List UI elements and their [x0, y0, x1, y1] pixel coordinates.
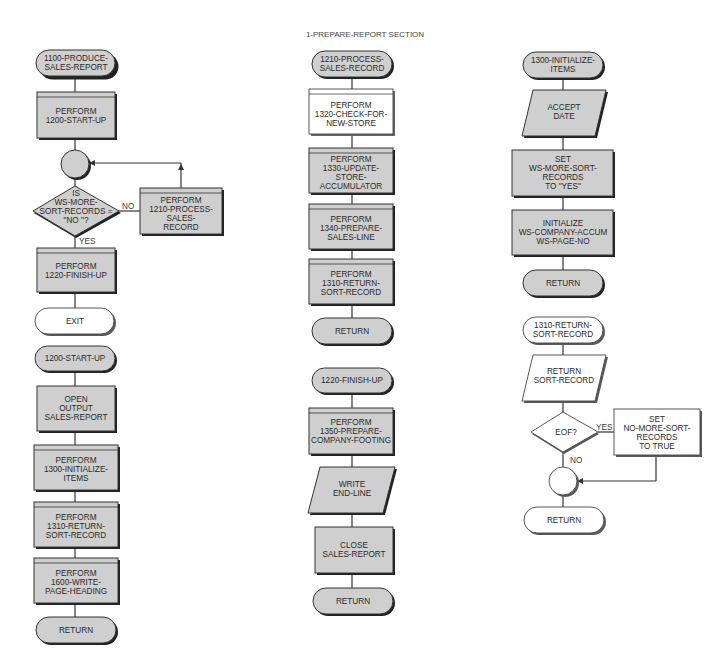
terminal-return[interactable]: RETURN — [312, 318, 394, 346]
process-set-ws-more-sort-records[interactable]: SET WS-MORE-SORT- RECORDS TO "YES" — [512, 150, 615, 198]
terminal-1220-finish-up[interactable]: 1220-FINISH-UP — [312, 368, 394, 395]
perform-1210-process-sales-record[interactable]: PERFORM 1210-PROCESS- SALES- RECORD — [140, 188, 224, 236]
svg-text:PERFORM: PERFORM — [331, 101, 372, 110]
terminal-return[interactable]: RETURN — [313, 588, 395, 616]
svg-text:SET: SET — [649, 415, 665, 424]
flow-1310-return-sort-record: 1310-RETURN- SORT-RECORD RETURN SORT-REC… — [522, 317, 702, 535]
label-yes: YES — [596, 423, 613, 432]
svg-text:RETURN: RETURN — [547, 367, 581, 376]
svg-text:1220-FINISH-UP: 1220-FINISH-UP — [45, 271, 107, 280]
svg-text:RETURN: RETURN — [547, 516, 581, 525]
perform-1300-initialize-items[interactable]: PERFORM 1300-INITIALIZE- ITEMS — [34, 445, 120, 492]
process-open-output-sales-report[interactable]: OPEN OUTPUT SALES-REPORT — [37, 386, 117, 433]
perform-1310-return-sort-record[interactable]: PERFORM 1310-RETURN- SORT-RECORD — [34, 502, 120, 549]
decision-ws-more-sort-records[interactable]: IS WS-MORE- SORT-RECORDS = "NO "? — [33, 186, 121, 238]
svg-text:1310-RETURN-: 1310-RETURN- — [534, 321, 592, 330]
label-no: NO — [570, 456, 582, 465]
svg-text:RECORDS: RECORDS — [543, 173, 584, 182]
perform-1220-finish-up[interactable]: PERFORM 1220-FINISH-UP — [37, 248, 117, 294]
svg-text:NEW-STORE: NEW-STORE — [326, 119, 376, 128]
svg-text:SORT-RECORDS =: SORT-RECORDS = — [40, 207, 113, 216]
svg-text:COMPANY-FOOTING: COMPANY-FOOTING — [311, 436, 391, 445]
terminal-return[interactable]: RETURN — [36, 617, 118, 645]
svg-text:WS-MORE-SORT-: WS-MORE-SORT- — [529, 164, 597, 173]
terminal-1100-produce-sales-report[interactable]: 1100-PRODUCE- SALES-REPORT — [36, 50, 119, 80]
process-initialize-ws-company-accum[interactable]: INITIALIZE WS-COMPANY-ACCUM WS-PAGE-NO — [512, 210, 615, 257]
terminal-1310-return-sort-record[interactable]: 1310-RETURN- SORT-RECORD — [523, 317, 605, 345]
terminal-1200-start-up[interactable]: 1200-START-UP — [35, 346, 117, 373]
svg-text:SALES-REPORT: SALES-REPORT — [322, 550, 385, 559]
terminal-1300-initialize-items[interactable]: 1300-INITIALIZE- ITEMS — [523, 52, 605, 80]
perform-1320-check-for-new-store[interactable]: PERFORM 1320-CHECK-FOR- NEW-STORE — [309, 89, 395, 136]
svg-text:EXIT: EXIT — [66, 317, 84, 326]
svg-text:EOF?: EOF? — [555, 428, 577, 437]
perform-1330-update-store-accumulator[interactable]: PERFORM 1330-UPDATE- STORE- ACCUMULATOR — [309, 148, 395, 195]
svg-text:1220-FINISH-UP: 1220-FINISH-UP — [321, 376, 383, 385]
svg-text:CLOSE: CLOSE — [340, 541, 368, 550]
arrowhead-icon — [178, 164, 184, 170]
svg-text:1310-RETURN-: 1310-RETURN- — [322, 279, 380, 288]
connector-circle — [549, 467, 579, 497]
svg-text:1300-INITIALIZE-: 1300-INITIALIZE- — [531, 56, 595, 65]
perform-1310-return-sort-record[interactable]: PERFORM 1310-RETURN- SORT-RECORD — [309, 259, 395, 306]
svg-text:1340-PREPARE-: 1340-PREPARE- — [320, 224, 382, 233]
svg-text:1200-START-UP: 1200-START-UP — [45, 354, 106, 363]
svg-text:TO TRUE: TO TRUE — [639, 442, 675, 451]
flow-1220-finish-up: 1220-FINISH-UP PERFORM 1350-PREPARE- COM… — [308, 368, 397, 616]
svg-text:PERFORM: PERFORM — [56, 262, 97, 271]
svg-text:PERFORM: PERFORM — [161, 196, 202, 205]
svg-text:SALES-LINE: SALES-LINE — [327, 233, 375, 242]
svg-text:NO-MORE-SORT-: NO-MORE-SORT- — [623, 424, 690, 433]
svg-text:OPEN: OPEN — [64, 395, 87, 404]
svg-text:SORT-RECORD: SORT-RECORD — [321, 288, 381, 297]
perform-1200-start-up[interactable]: PERFORM 1200-START-UP — [37, 92, 117, 140]
svg-text:SORT-RECORD: SORT-RECORD — [534, 376, 594, 385]
io-accept-date[interactable]: ACCEPT DATE — [522, 90, 608, 138]
svg-text:STORE-: STORE- — [336, 173, 367, 182]
svg-text:ACCUMULATOR: ACCUMULATOR — [320, 182, 383, 191]
svg-text:1210-PROCESS-: 1210-PROCESS- — [320, 55, 384, 64]
terminal-return[interactable]: RETURN — [523, 270, 605, 298]
flow-1300-initialize-items: 1300-INITIALIZE- ITEMS ACCEPT DATE SET W… — [512, 52, 615, 298]
svg-text:INITIALIZE: INITIALIZE — [543, 219, 584, 228]
svg-text:WRITE: WRITE — [339, 480, 366, 489]
process-set-no-more-sort-records[interactable]: SET NO-MORE-SORT- RECORDS TO TRUE — [614, 409, 702, 457]
connector-circle — [61, 150, 91, 180]
label-no: NO — [122, 202, 134, 211]
svg-text:PERFORM: PERFORM — [56, 107, 97, 116]
svg-text:SALES-RECORD: SALES-RECORD — [320, 64, 385, 73]
svg-text:TO "YES": TO "YES" — [545, 182, 581, 191]
svg-text:1330-UPDATE-: 1330-UPDATE- — [323, 164, 380, 173]
section-title: 1-PREPARE-REPORT SECTION — [306, 30, 424, 39]
svg-text:WS-PAGE-NO: WS-PAGE-NO — [536, 237, 589, 246]
label-yes: YES — [79, 237, 96, 246]
svg-text:OUTPUT: OUTPUT — [59, 404, 93, 413]
svg-text:RETURN: RETURN — [546, 279, 580, 288]
svg-text:WS-MORE-: WS-MORE- — [54, 198, 97, 207]
svg-text:ITEMS: ITEMS — [550, 65, 576, 74]
svg-text:WS-COMPANY-ACCUM: WS-COMPANY-ACCUM — [519, 228, 608, 237]
svg-text:DATE: DATE — [553, 112, 575, 121]
svg-text:RETURN: RETURN — [59, 626, 93, 635]
svg-text:PERFORM: PERFORM — [331, 418, 372, 427]
terminal-exit[interactable]: EXIT — [35, 308, 116, 336]
io-return-sort-record[interactable]: RETURN SORT-RECORD — [522, 355, 608, 403]
svg-text:1200-START-UP: 1200-START-UP — [46, 116, 107, 125]
process-close-sales-report[interactable]: CLOSE SALES-REPORT — [315, 527, 395, 575]
io-write-end-line[interactable]: WRITE END-LINE — [308, 467, 397, 515]
svg-text:PAGE-HEADING: PAGE-HEADING — [45, 587, 107, 596]
perform-1600-write-page-heading[interactable]: PERFORM 1600-WRITE- PAGE-HEADING — [34, 558, 120, 605]
perform-1340-prepare-sales-line[interactable]: PERFORM 1340-PREPARE- SALES-LINE — [309, 204, 395, 251]
svg-text:1350-PREPARE-: 1350-PREPARE- — [320, 427, 382, 436]
svg-text:1320-CHECK-FOR-: 1320-CHECK-FOR- — [315, 110, 388, 119]
terminal-return[interactable]: RETURN — [524, 507, 606, 535]
svg-text:1310-RETURN-: 1310-RETURN- — [47, 522, 105, 531]
perform-1350-prepare-company-footing[interactable]: PERFORM 1350-PREPARE- COMPANY-FOOTING — [309, 408, 395, 456]
svg-text:1210-PROCESS-: 1210-PROCESS- — [149, 205, 213, 214]
terminal-1210-process-sales-record[interactable]: 1210-PROCESS- SALES-RECORD — [312, 51, 394, 79]
decision-eof[interactable]: EOF? — [531, 412, 599, 454]
svg-text:1600-WRITE-: 1600-WRITE- — [51, 578, 101, 587]
svg-text:SORT-RECORD: SORT-RECORD — [46, 531, 106, 540]
svg-text:"NO "?: "NO "? — [64, 216, 89, 225]
svg-text:END-LINE: END-LINE — [333, 489, 372, 498]
